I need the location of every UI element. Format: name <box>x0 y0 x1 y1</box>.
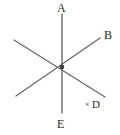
geometry-figure: A B E × D <box>0 0 120 135</box>
figure-canvas <box>0 0 120 135</box>
cross-mark-icon: × <box>85 101 90 109</box>
point-label-d: D <box>92 99 100 110</box>
vertex-label-b: B <box>104 29 112 41</box>
center-point-dot <box>60 65 64 69</box>
vertex-label-a: A <box>57 2 66 14</box>
vertex-label-e: E <box>57 118 64 130</box>
line-diagonal-b <box>16 38 100 96</box>
